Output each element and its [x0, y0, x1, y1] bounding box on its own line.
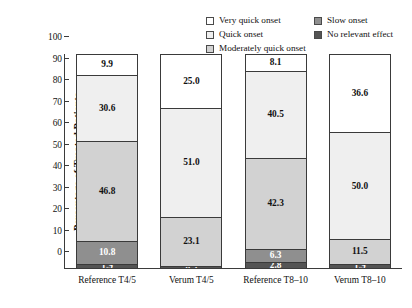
bar-group[interactable]: 36.650.011.51.9Verum T8–10: [329, 54, 391, 268]
y-axis-tick: 60: [43, 113, 64, 131]
legend-swatch-icon: [314, 31, 322, 39]
bar-segment-value-label: 2.8: [270, 262, 282, 268]
y-axis-tick: 40: [43, 156, 64, 174]
bar-segment-value-label: 11.5: [352, 247, 368, 256]
legend-swatch-icon: [206, 45, 214, 53]
bar-segment[interactable]: 23.1: [160, 217, 222, 266]
bar-segment-value-label: 6.3: [270, 251, 282, 260]
bar-segment-value-label: 36.6: [352, 89, 368, 98]
bar-segment[interactable]: 42.3: [245, 158, 307, 249]
y-axis-tick: 20: [43, 199, 64, 217]
bar-segment[interactable]: 40.5: [245, 71, 307, 158]
bar-group[interactable]: 9.930.646.810.81.9Reference T4/5: [76, 54, 138, 268]
bar-segment[interactable]: 1.9: [76, 264, 138, 268]
bar-segment-value-label: 46.8: [99, 187, 115, 196]
x-axis-category-label: Verum T4/5: [169, 275, 214, 285]
legend-item-label: Quick onset: [219, 30, 263, 39]
legend-item[interactable]: No relevant effect: [314, 28, 393, 41]
y-axis-tick-label: 30: [43, 183, 62, 193]
y-axis-tick-label: 70: [43, 97, 62, 107]
y-axis-tick: 100: [43, 27, 64, 45]
y-axis-tick-mark: [64, 36, 69, 37]
x-axis-category-label: Verum T8–10: [334, 275, 386, 285]
bar-segment-value-label: 1.9: [101, 264, 113, 268]
y-axis-tick-label: 40: [43, 161, 62, 171]
y-axis-tick: 0: [43, 242, 64, 260]
bar-group[interactable]: 25.051.023.10.9Verum T4/5: [160, 54, 222, 268]
x-axis-line: [64, 268, 402, 269]
bar-segment-value-label: 51.0: [183, 158, 199, 167]
bar-segment-value-label: 30.6: [99, 104, 115, 113]
bar-segment[interactable]: 46.8: [76, 141, 138, 241]
legend-swatch-icon: [206, 17, 214, 25]
bar-segment[interactable]: 6.3: [245, 249, 307, 262]
bar-segment-value-label: 25.0: [183, 77, 199, 86]
bar-segment[interactable]: 51.0: [160, 108, 222, 217]
bar-segment[interactable]: 2.8: [245, 262, 307, 268]
bar-segment-value-label: 42.3: [267, 199, 283, 208]
legend-column-left: Very quick onsetQuick onsetModerately qu…: [206, 14, 306, 56]
bar-segment-value-label: 9.9: [101, 60, 113, 69]
y-axis-tick-label: 10: [43, 226, 62, 236]
x-axis-category-label: Reference T4/5: [78, 275, 136, 285]
bar-segment-value-label: 0.9: [186, 266, 198, 268]
bar-segment-value-label: 10.8: [99, 248, 115, 257]
bar-segment-value-label: 50.0: [352, 182, 368, 191]
bar-group[interactable]: 8.140.542.36.32.8Reference T8–10: [245, 54, 307, 268]
legend-column-right: Slow onsetNo relevant effect: [314, 14, 393, 42]
bar-segment[interactable]: 0.9: [160, 266, 222, 268]
y-axis-tick: 70: [43, 92, 64, 110]
legend-item-label: Slow onset: [327, 16, 368, 25]
bar-segment-value-label: 23.1: [183, 237, 199, 246]
bar-segment-value-label: 8.1: [270, 58, 282, 67]
y-axis-tick: 50: [43, 135, 64, 153]
y-axis-tick-label: 50: [43, 140, 62, 150]
legend-swatch-icon: [206, 31, 214, 39]
bar-segment[interactable]: 25.0: [160, 54, 222, 108]
legend-swatch-icon: [314, 17, 322, 25]
legend-item-label: Very quick onset: [219, 16, 281, 25]
plot-area: Percentage of Treated Patients 010203040…: [64, 54, 402, 269]
stacked-bar-chart: Very quick onsetQuick onsetModerately qu…: [0, 0, 412, 308]
bar-segment-value-label: 40.5: [267, 110, 283, 119]
y-axis-tick-label: 20: [43, 204, 62, 214]
x-axis-category-label: Reference T8–10: [243, 275, 308, 285]
legend-item[interactable]: Very quick onset: [206, 14, 306, 27]
bar-segment[interactable]: 50.0: [329, 132, 391, 239]
y-axis-tick-label: 80: [43, 75, 62, 85]
y-axis-tick: 80: [43, 70, 64, 88]
y-axis-tick: 30: [43, 178, 64, 196]
bar-segment[interactable]: 9.9: [76, 54, 138, 75]
bar-series-container: 9.930.646.810.81.9Reference T4/525.051.0…: [65, 54, 402, 268]
y-axis-tick-label: 90: [43, 54, 62, 64]
bar-segment[interactable]: 11.5: [329, 239, 391, 264]
legend-item[interactable]: Quick onset: [206, 28, 306, 41]
y-axis-tick-label: 60: [43, 118, 62, 128]
y-axis-tick: 10: [43, 221, 64, 239]
bar-segment[interactable]: 1.9: [329, 264, 391, 268]
bar-segment[interactable]: 8.1: [245, 54, 307, 71]
bar-segment[interactable]: 30.6: [76, 75, 138, 140]
y-axis-tick-label: 100: [43, 32, 62, 42]
bar-segment-value-label: 1.9: [354, 264, 366, 268]
bar-segment[interactable]: 10.8: [76, 241, 138, 264]
legend-item[interactable]: Slow onset: [314, 14, 393, 27]
y-axis-tick: 90: [43, 49, 64, 67]
y-axis-tick-label: 0: [43, 247, 62, 257]
legend-item-label: Moderately quick onset: [219, 44, 306, 53]
bar-segment[interactable]: 36.6: [329, 54, 391, 132]
legend-item-label: No relevant effect: [327, 30, 393, 39]
